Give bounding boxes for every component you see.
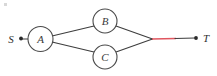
node-dot-s[interactable] xyxy=(19,37,23,41)
node-label-s: S xyxy=(8,33,14,45)
scan-artifact-speck xyxy=(4,3,7,6)
edge-c-to-junction xyxy=(116,39,153,52)
node-label-b: B xyxy=(102,15,109,27)
network-diagram-figure: S A B C T xyxy=(0,0,217,76)
node-label-c: C xyxy=(101,51,109,63)
edge-mid-to-t xyxy=(175,38,195,39)
diagram-canvas: S A B C T xyxy=(0,0,217,76)
edge-b-to-junction xyxy=(116,26,153,39)
edge-a-to-c xyxy=(52,42,94,52)
node-dot-t[interactable] xyxy=(194,36,198,40)
node-label-t: T xyxy=(203,32,210,44)
edge-a-to-b xyxy=(52,26,94,36)
node-label-a: A xyxy=(36,33,44,45)
edge-junction-to-t-highlighted xyxy=(152,39,176,40)
